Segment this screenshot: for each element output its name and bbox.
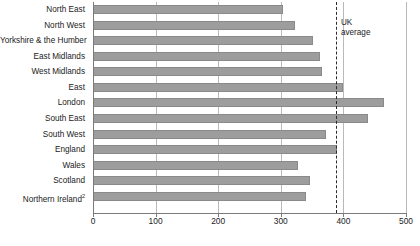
x-axis-line <box>93 213 406 214</box>
bar-row <box>93 2 406 17</box>
bar-chart: North EastNorth WestYorkshire & the Humb… <box>0 0 420 246</box>
category-label-west-midlands: West Midlands <box>0 64 89 79</box>
x-tick-label-200: 200 <box>211 216 225 226</box>
bar-row <box>93 158 406 173</box>
category-label-england: England <box>0 142 89 157</box>
bar-northern-ireland <box>93 192 306 201</box>
x-tickmark-300 <box>281 213 282 217</box>
bar-row <box>93 64 406 79</box>
category-label-northern-ireland: Northern Ireland2 <box>0 189 89 207</box>
category-label-north-west: North West <box>0 18 89 33</box>
x-tickmark-100 <box>156 213 157 217</box>
bar-south-east <box>93 114 368 123</box>
bar-west-midlands <box>93 67 322 76</box>
y-axis-line <box>93 2 94 214</box>
category-label-east-midlands: East Midlands <box>0 49 89 64</box>
x-axis-tick-labels: 0100200300400500 <box>0 216 420 230</box>
bar-east-midlands <box>93 52 320 61</box>
category-label-south-west: South West <box>0 127 89 142</box>
x-tick-label-500: 500 <box>399 216 413 226</box>
bar-row <box>93 189 406 204</box>
x-tick-label-0: 0 <box>91 216 96 226</box>
x-tick-label-400: 400 <box>336 216 350 226</box>
bar-south-west <box>93 130 326 139</box>
uk-average-label-line: UK <box>341 18 371 28</box>
uk-average-label-line: average <box>341 28 371 38</box>
gridline-500 <box>406 2 407 213</box>
bar-row <box>93 95 406 110</box>
bar-row <box>93 80 406 95</box>
bar-england <box>93 145 337 154</box>
uk-average-annotation: UKaverage <box>341 18 371 38</box>
bar-row <box>93 173 406 188</box>
x-tick-label-100: 100 <box>149 216 163 226</box>
x-tickmark-0 <box>93 213 94 217</box>
x-tickmark-400 <box>343 213 344 217</box>
bar-north-east <box>93 5 283 14</box>
footnote-marker: 2 <box>82 193 85 199</box>
category-label-wales: Wales <box>0 158 89 173</box>
uk-average-line <box>336 2 337 213</box>
bar-row <box>93 142 406 157</box>
bar-row <box>93 127 406 142</box>
bar-london <box>93 98 384 107</box>
bar-north-west <box>93 21 295 30</box>
x-tickmark-200 <box>218 213 219 217</box>
category-label-scotland: Scotland <box>0 173 89 188</box>
category-label-yorkshire-the-humber: Yorkshire & the Humber <box>0 33 89 48</box>
bar-row <box>93 111 406 126</box>
bar-row <box>93 49 406 64</box>
bar-scotland <box>93 176 310 185</box>
bar-yorkshire-the-humber <box>93 36 313 45</box>
bar-wales <box>93 161 298 170</box>
category-label-north-east: North East <box>0 2 89 17</box>
x-tickmark-500 <box>406 213 407 217</box>
category-label-east: East <box>0 80 89 95</box>
category-label-london: London <box>0 95 89 110</box>
category-axis: North EastNorth WestYorkshire & the Humb… <box>0 2 89 213</box>
category-label-south-east: South East <box>0 111 89 126</box>
bar-east <box>93 83 343 92</box>
x-tick-label-300: 300 <box>274 216 288 226</box>
